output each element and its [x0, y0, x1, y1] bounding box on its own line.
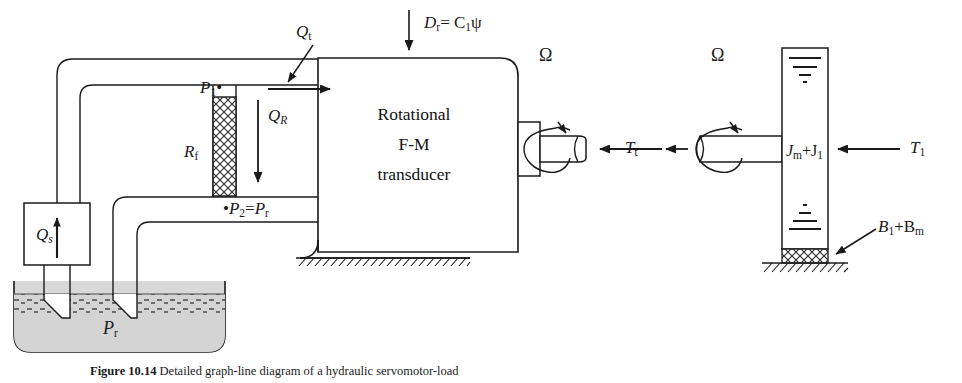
flow-total-subscript: t — [308, 30, 312, 42]
resistance-subscript: f — [194, 150, 198, 162]
supply-piping — [57, 59, 318, 300]
svg-text:Rf: Rf — [183, 142, 198, 162]
resistance-symbol: R — [183, 142, 195, 161]
label-pressure-1: P1• — [199, 78, 222, 98]
transducer-line-3: transducer — [378, 164, 451, 184]
svg-text:•P2=Pr: •P2=Pr — [223, 199, 269, 219]
supply-pump — [24, 203, 90, 265]
damper-support — [762, 249, 848, 272]
hydraulic-servomotor-diagram: Dr= C1ψ Qt P1• QR Rf — [0, 0, 962, 383]
displacement-symbol: D — [423, 13, 437, 32]
label-damping: B1+Bm — [878, 217, 924, 237]
figure-number: Figure 10.14 — [90, 364, 156, 378]
pressure-2-rhs-subscript: r — [265, 207, 269, 219]
pressure-2-rhs-symbol: P — [254, 199, 265, 218]
transducer-block — [300, 58, 518, 258]
label-torque-load: T1 — [910, 138, 925, 158]
label-flow-resistor: QR — [268, 106, 287, 126]
flow-resistor-symbol: Q — [268, 106, 280, 125]
base-fillet — [300, 240, 318, 258]
restrictor-branch — [213, 85, 236, 197]
svg-text:B1+Bm: B1+Bm — [878, 217, 924, 237]
inertia-subscript-2: 1 — [817, 149, 823, 161]
label-pressure-2: •P2=Pr — [223, 199, 269, 219]
transducer-body — [318, 58, 518, 252]
flow-supply-symbol: Q — [36, 225, 48, 244]
damping-plus: +B — [894, 217, 915, 236]
ground-support-hatching — [296, 258, 470, 266]
reservoir-pressure-symbol: P — [102, 318, 114, 338]
reservoir-tank — [14, 281, 225, 352]
pressure-1-node-dot: • — [216, 78, 222, 97]
label-omega-left: Ω — [539, 45, 552, 65]
torque-load-subscript: 1 — [919, 146, 925, 158]
resistor-element — [213, 97, 236, 196]
transducer-line-2: F-M — [398, 134, 430, 154]
displacement-equals: = C — [440, 13, 465, 32]
pressure-1-symbol: P — [199, 78, 210, 97]
label-flow-total: Qt — [296, 22, 312, 42]
inertia-subscript: m — [793, 149, 802, 161]
flow-supply-subscript: s — [48, 233, 53, 245]
svg-text:P1•: P1• — [199, 78, 222, 98]
figure-caption-text: Detailed graph-line diagram of a hydraul… — [160, 364, 459, 378]
flow-resistor-subscript: R — [279, 114, 287, 126]
svg-text:QR: QR — [268, 106, 287, 126]
pressure-2-equals: = — [245, 199, 255, 218]
svg-text:T1: T1 — [910, 138, 925, 158]
pressure-2-symbol: P — [228, 199, 239, 218]
figure-caption: Figure 10.14 Detailed graph-line diagram… — [90, 364, 790, 380]
label-omega-right: Ω — [711, 45, 724, 65]
label-displacement: Dr= C1ψ — [423, 13, 482, 33]
damping-leader-arrow — [836, 229, 876, 254]
qt-leader-arrow — [288, 45, 313, 82]
label-resistance: Rf — [183, 142, 198, 162]
shaft-segment-right — [697, 136, 783, 162]
svg-text:Qt: Qt — [296, 22, 312, 42]
damping-subscript-2: m — [915, 225, 924, 237]
svg-text:Dr= C1ψ: Dr= C1ψ — [423, 13, 482, 33]
displacement-psi: ψ — [471, 13, 482, 32]
figure-container: Dr= C1ψ Qt P1• QR Rf — [0, 0, 962, 383]
transducer-line-1: Rotational — [378, 104, 451, 124]
torque-transducer-subscript: t — [634, 146, 638, 158]
svg-text:Tt: Tt — [625, 138, 638, 158]
flow-total-symbol: Q — [296, 22, 308, 41]
damping-symbol: B — [878, 217, 889, 236]
inertia-plus: +J — [802, 142, 817, 159]
damper-element — [782, 249, 828, 263]
label-torque-transducer: Tt — [625, 138, 638, 158]
shaft-segment-left — [540, 136, 586, 162]
reservoir-pressure-subscript: r — [114, 327, 118, 339]
